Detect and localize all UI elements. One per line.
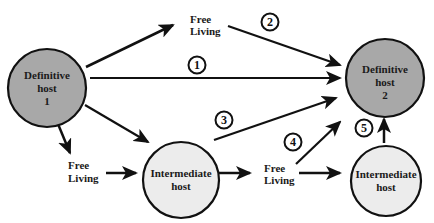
life-cycle-diagram: Definitive host 1 Definitive host 2 Inte… [0, 0, 434, 223]
intermediate-host-b-line2: host [376, 181, 396, 193]
node-definitive-host-2: Definitive host 2 [346, 39, 424, 117]
definitive-host-1-line1: Definitive [24, 69, 70, 81]
node-intermediate-host-b: Intermediate host [351, 146, 421, 216]
route-label-5: 5 [356, 120, 373, 137]
free-living-top-line2: Living [190, 25, 221, 37]
free-living-left-line1: Free [68, 159, 89, 171]
arrow-free-top-to-def2 [228, 26, 340, 65]
intermediate-host-a-line2: host [171, 180, 191, 192]
free-living-top: Free Living [190, 13, 221, 37]
definitive-host-1-line2: host [37, 82, 57, 94]
free-living-top-line1: Free [190, 13, 211, 25]
free-living-right: Free Living [264, 162, 295, 186]
free-living-right-line2: Living [264, 174, 295, 186]
arrow-def1-to-intermediate-a [85, 105, 148, 142]
arrow-def1-to-free-top [86, 25, 173, 67]
definitive-host-2-line3: 2 [382, 89, 388, 101]
route-label-2: 2 [262, 14, 279, 31]
free-living-right-line1: Free [264, 162, 285, 174]
free-living-left: Free Living [68, 159, 99, 184]
route-4-number: 4 [290, 135, 296, 149]
route-label-1: 1 [189, 57, 206, 74]
route-5-number: 5 [361, 121, 367, 135]
route-2-number: 2 [267, 15, 273, 29]
arrows [58, 25, 384, 173]
definitive-host-2-line2: host [375, 76, 395, 88]
route-label-4: 4 [285, 134, 302, 151]
definitive-host-2-line1: Definitive [362, 63, 408, 75]
node-definitive-host-1: Definitive host 1 [8, 49, 86, 127]
route-label-3: 3 [216, 112, 233, 129]
arrow-def1-to-free-left [58, 124, 70, 153]
intermediate-host-a-line1: Intermediate [150, 167, 211, 179]
intermediate-host-b-line1: Intermediate [355, 168, 416, 180]
node-intermediate-host-a: Intermediate host [143, 142, 219, 218]
definitive-host-1-line3: 1 [44, 95, 50, 107]
route-1-number: 1 [194, 58, 200, 72]
arrow-free-right-to-def2 [296, 122, 340, 164]
route-3-number: 3 [221, 113, 227, 127]
free-living-left-line2: Living [68, 172, 99, 184]
